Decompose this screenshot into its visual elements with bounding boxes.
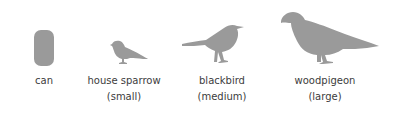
house-sparrow-icon (110, 40, 150, 66)
woodpigeon-label: woodpigeon (large) (265, 73, 385, 105)
blackbird-label: blackbird (medium) (162, 73, 282, 105)
woodpigeon-icon (279, 11, 383, 67)
blackbird-icon (180, 24, 248, 67)
can-icon (34, 30, 54, 66)
